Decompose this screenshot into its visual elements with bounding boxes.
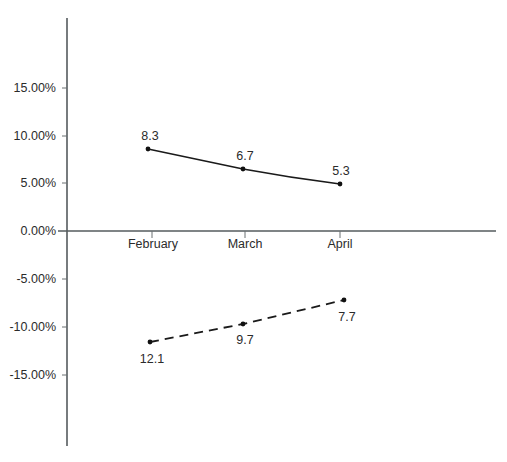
data-label-lower-march: 9.7: [236, 333, 253, 347]
y-axis-label-neg5: -5.00%: [16, 272, 56, 286]
data-point-lower-april: [342, 298, 347, 303]
x-axis-label-april: April: [327, 237, 352, 251]
data-label-upper-april: 5.3: [332, 164, 349, 178]
data-label-lower-february: 12.1: [140, 352, 164, 366]
data-point-lower-march: [241, 322, 246, 327]
y-axis-label-10: 10.00%: [14, 129, 56, 143]
data-point-upper-february: [146, 147, 151, 152]
x-axis-label-february: February: [128, 237, 179, 251]
data-label-upper-march: 6.7: [236, 149, 253, 163]
data-label-lower-april: 7.7: [338, 310, 355, 324]
data-point-upper-april: [338, 182, 343, 187]
chart-container: 15.00% 10.00% 5.00% 0.00% -5.00% -10.00%…: [0, 0, 507, 462]
y-axis-label-15: 15.00%: [14, 81, 56, 95]
x-axis-label-march: March: [228, 237, 263, 251]
y-axis-label-neg10: -10.00%: [9, 320, 56, 334]
y-axis-label-0: 0.00%: [21, 224, 56, 238]
data-point-upper-march: [241, 167, 246, 172]
data-point-lower-february: [148, 340, 153, 345]
y-axis-label-neg15: -15.00%: [9, 368, 56, 382]
data-label-upper-february: 8.3: [141, 129, 158, 143]
line-chart: 15.00% 10.00% 5.00% 0.00% -5.00% -10.00%…: [0, 0, 507, 462]
y-axis-label-5: 5.00%: [21, 176, 56, 190]
